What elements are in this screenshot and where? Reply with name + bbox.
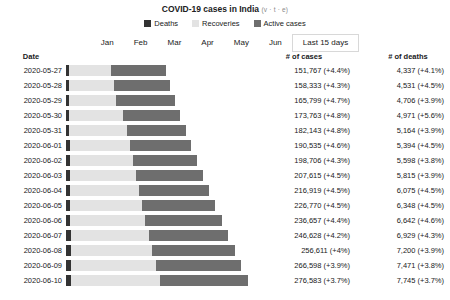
- bar-segment-active-cases: [160, 275, 248, 286]
- bar-segment-recoveries: [70, 185, 139, 196]
- table-row: 2020-05-30173,763 (+4.8%)4,971 (+5.6%): [0, 108, 450, 123]
- bar-segment-active-cases: [149, 230, 229, 241]
- cell-cases: 158,333 (+4.3%): [258, 78, 350, 93]
- cell-date: 2020-06-10: [0, 273, 62, 288]
- table-body: 2020-05-27151,767 (+4.4%)4,337 (+4.1%)20…: [0, 63, 450, 288]
- bar-segment-recoveries: [71, 275, 160, 286]
- stacked-bar: [66, 275, 248, 286]
- table-row: 2020-06-01190,535 (+4.6%)5,394 (+4.5%): [0, 138, 450, 153]
- cell-deaths: 7,745 (+3.7%): [372, 273, 444, 288]
- column-header-cases: # of cases: [258, 50, 350, 63]
- bar-segment-recoveries: [70, 215, 145, 226]
- cell-cases: 207,615 (+4.5%): [258, 168, 350, 183]
- bar-segment-recoveries: [70, 155, 133, 166]
- cell-date: 2020-06-03: [0, 168, 62, 183]
- cell-cases: 151,767 (+4.4%): [258, 63, 350, 78]
- bar-segment-recoveries: [71, 230, 149, 241]
- bar-segment-active-cases: [136, 170, 203, 181]
- cell-cases: 276,583 (+3.7%): [258, 273, 350, 288]
- cell-cases: 165,799 (+4.7%): [258, 93, 350, 108]
- bar-segment-recoveries: [71, 260, 156, 271]
- stacked-bar: [66, 110, 180, 121]
- vte-links[interactable]: (v · t · e): [261, 6, 288, 13]
- cell-deaths: 7,471 (+3.8%): [372, 258, 444, 273]
- cell-deaths: 6,075 (+4.5%): [372, 183, 444, 198]
- cell-deaths: 7,200 (+3.9%): [372, 243, 444, 258]
- bar-segment-active-cases: [152, 245, 234, 256]
- cell-cases: 216,919 (+4.5%): [258, 183, 350, 198]
- bar-segment-active-cases: [139, 185, 209, 196]
- cell-date: 2020-06-09: [0, 258, 62, 273]
- bar-segment-active-cases: [156, 260, 241, 271]
- column-header-deaths: # of deaths: [372, 50, 444, 63]
- stacked-bar: [66, 95, 175, 106]
- table-row: 2020-06-09266,598 (+3.9%)7,471 (+3.8%): [0, 258, 450, 273]
- table-row: 2020-06-07246,628 (+4.2%)6,929 (+4.3%): [0, 228, 450, 243]
- bar-segment-recoveries: [69, 110, 123, 121]
- page-title: COVID-19 cases in India: [162, 4, 259, 14]
- stacked-bar: [66, 245, 235, 256]
- bar-segment-recoveries: [71, 245, 153, 256]
- cell-date: 2020-05-27: [0, 63, 62, 78]
- bar-segment-active-cases: [142, 200, 215, 211]
- cell-deaths: 5,598 (+3.8%): [372, 153, 444, 168]
- table-row: 2020-05-31182,143 (+4.8%)5,164 (+3.9%): [0, 123, 450, 138]
- table-row: 2020-05-29165,799 (+4.7%)4,706 (+3.9%): [0, 93, 450, 108]
- bar-segment-active-cases: [111, 65, 166, 76]
- cell-date: 2020-06-05: [0, 198, 62, 213]
- table-row: 2020-06-03207,615 (+4.5%)5,815 (+3.9%): [0, 168, 450, 183]
- legend-label: Recoveries: [202, 19, 240, 28]
- bar-segment-recoveries: [69, 80, 114, 91]
- cell-date: 2020-05-30: [0, 108, 62, 123]
- stacked-bar: [66, 260, 241, 271]
- cell-cases: 190,535 (+4.6%): [258, 138, 350, 153]
- chart-title-row: COVID-19 cases in India (v · t · e): [0, 0, 450, 15]
- bar-segment-active-cases: [116, 95, 175, 106]
- table-row: 2020-06-10276,583 (+3.7%)7,745 (+3.7%): [0, 273, 450, 288]
- bar-segment-recoveries: [70, 170, 136, 181]
- table-row: 2020-06-06236,657 (+4.4%)6,642 (+4.6%): [0, 213, 450, 228]
- cell-cases: 182,143 (+4.8%): [258, 123, 350, 138]
- legend-item: Active cases: [254, 19, 306, 28]
- cell-deaths: 5,164 (+3.9%): [372, 123, 444, 138]
- table-row: 2020-05-27151,767 (+4.4%)4,337 (+4.1%): [0, 63, 450, 78]
- cell-deaths: 4,706 (+3.9%): [372, 93, 444, 108]
- legend-item: Recoveries: [192, 19, 240, 28]
- legend-swatch-icon: [254, 20, 261, 27]
- stacked-bar: [66, 65, 166, 76]
- bar-segment-active-cases: [123, 110, 180, 121]
- cell-cases: 236,657 (+4.4%): [258, 213, 350, 228]
- bar-segment-active-cases: [133, 155, 197, 166]
- legend-item: Deaths: [144, 19, 178, 28]
- bar-segment-recoveries: [70, 140, 130, 151]
- table-row: 2020-06-08256,611 (+4%)7,200 (+3.9%): [0, 243, 450, 258]
- cell-date: 2020-05-31: [0, 123, 62, 138]
- legend-swatch-icon: [192, 20, 199, 27]
- cell-deaths: 4,531 (+4.5%): [372, 78, 444, 93]
- stacked-bar: [66, 125, 186, 136]
- cell-date: 2020-06-06: [0, 213, 62, 228]
- cell-cases: 246,628 (+4.2%): [258, 228, 350, 243]
- cell-deaths: 4,337 (+4.1%): [372, 63, 444, 78]
- cell-deaths: 6,348 (+4.5%): [372, 198, 444, 213]
- column-header-date: Date: [0, 50, 62, 63]
- stacked-bar: [66, 170, 203, 181]
- bar-segment-recoveries: [70, 200, 142, 211]
- bar-segment-recoveries: [69, 95, 116, 106]
- legend-swatch-icon: [144, 20, 151, 27]
- bar-segment-recoveries: [69, 125, 126, 136]
- cell-deaths: 6,929 (+4.3%): [372, 228, 444, 243]
- stacked-bar: [66, 200, 215, 211]
- cell-date: 2020-06-01: [0, 138, 62, 153]
- cell-date: 2020-06-07: [0, 228, 62, 243]
- bar-segment-recoveries: [69, 65, 111, 76]
- cell-cases: 198,706 (+4.3%): [258, 153, 350, 168]
- chart-legend: DeathsRecoveriesActive cases: [0, 19, 450, 28]
- bar-segment-active-cases: [145, 215, 221, 226]
- legend-label: Active cases: [264, 19, 306, 28]
- cell-date: 2020-06-08: [0, 243, 62, 258]
- table-header-row: Date # of cases # of deaths: [0, 50, 450, 63]
- stacked-bar: [66, 185, 209, 196]
- stacked-bar: [66, 215, 222, 226]
- table-row: 2020-06-04216,919 (+4.5%)6,075 (+4.5%): [0, 183, 450, 198]
